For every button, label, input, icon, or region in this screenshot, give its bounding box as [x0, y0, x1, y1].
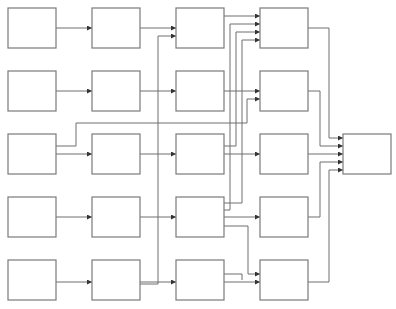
node-r2c2 [176, 134, 224, 174]
edge-r4c2-to-r4c3 [224, 274, 242, 280]
node-r0c3 [260, 8, 308, 48]
edge-r4c3-to-out [308, 170, 343, 282]
node-r4c2 [176, 260, 224, 300]
edge-r3c2-to-r4c3 [224, 226, 260, 274]
node-r1c3 [260, 71, 308, 111]
node-r0c2 [176, 8, 224, 48]
node-r3c1 [92, 197, 140, 237]
edge-r0c3-to-out [308, 28, 343, 138]
edge-r3c2-to-r0c3 [224, 40, 260, 203]
node-r3c0 [8, 197, 56, 237]
node-out [343, 134, 391, 174]
node-r1c0 [8, 71, 56, 111]
node-r0c1 [92, 8, 140, 48]
node-r1c2 [176, 71, 224, 111]
node-r0c0 [8, 8, 56, 48]
node-r2c0 [8, 134, 56, 174]
node-r4c0 [8, 260, 56, 300]
flow-diagram [0, 0, 396, 309]
node-r2c3 [260, 134, 308, 174]
node-r2c1 [92, 134, 140, 174]
node-r4c3 [260, 260, 308, 300]
node-r3c3 [260, 197, 308, 237]
node-r3c2 [176, 197, 224, 237]
edge-r4c1-to-r0c2 [140, 36, 176, 284]
node-r1c1 [92, 71, 140, 111]
node-r4c1 [92, 260, 140, 300]
